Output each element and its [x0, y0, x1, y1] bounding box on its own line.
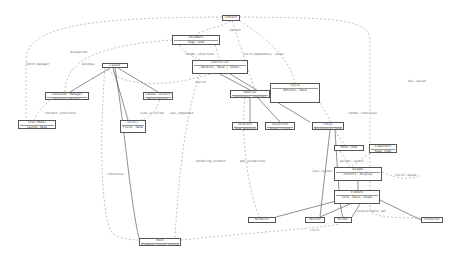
edge-label: pen_properties: [240, 159, 265, 163]
edge-label: child: [310, 228, 319, 232]
node-title: Context: [224, 16, 238, 20]
class-node: Container ManagerDisplay object: [45, 92, 89, 100]
node-members: Image layout: [267, 128, 293, 130]
edge-label: size_scrolled: [140, 111, 163, 115]
edge-label: last_layout: [312, 169, 332, 173]
class-node: FocusNavigation Item: [312, 122, 344, 130]
node-members: Core, Base, Shape: [336, 196, 378, 200]
edge-label: Windows: [82, 62, 95, 66]
node-title: Renderer: [250, 218, 274, 222]
class-node: Context: [222, 15, 240, 21]
class-node: ElementCore, Base, Shape: [334, 190, 380, 204]
node-title: Container: [423, 218, 441, 222]
node-members: Base item: [371, 150, 395, 153]
node-members: Page item: [174, 41, 218, 45]
edge-label: render_interface: [185, 52, 214, 56]
node-title: Painter: [307, 218, 323, 222]
edge-label: parent: [230, 28, 241, 32]
node-members: Display object: [47, 98, 87, 100]
edge-label: owner: [275, 52, 284, 56]
edge-label: reference: [107, 172, 123, 176]
edge-label: render_interface: [348, 111, 377, 115]
diagram-canvas: ContextDocumentPage itemControllerHandle…: [0, 0, 464, 256]
edge-label: child_dependency: [243, 52, 272, 56]
class-node: HandlerConnector, Options: [230, 90, 270, 98]
node-members: Control, Display: [336, 173, 380, 177]
class-node: Layout: [102, 63, 128, 68]
class-node: Border: [334, 217, 352, 223]
edge-label: has_layout: [408, 79, 426, 83]
class-node: View ModelLayout data: [18, 120, 56, 129]
class-node: ScrollField, Data: [120, 120, 146, 133]
node-members: Base object: [145, 98, 171, 100]
edge-label: rendering_context: [195, 159, 226, 163]
node-title: Menu Item: [336, 146, 362, 150]
node-title: Border: [336, 218, 350, 222]
edge-label: fetch_manager: [26, 62, 49, 66]
class-node: SelectionImage layout: [265, 122, 295, 130]
node-members: Navigation Item: [314, 128, 342, 130]
edge-label: child_layout: [395, 173, 417, 177]
class-node: StyleOptions, Base: [270, 83, 320, 103]
node-title: Layout: [104, 64, 126, 68]
node-members: Field, Data: [122, 126, 144, 130]
class-node: DocumentPage item: [172, 35, 220, 45]
class-node: Painter: [305, 217, 325, 223]
edge-label: context_interface: [45, 111, 76, 115]
edge-label: interactable_set: [357, 209, 386, 213]
class-node: WidgetControl, Display: [334, 167, 382, 181]
node-members: Options, Base: [272, 89, 318, 93]
node-members: Layout data: [20, 126, 54, 129]
node-members: Item Handler: [234, 128, 256, 130]
class-node: Menu Item: [334, 145, 364, 151]
node-members: Connector, Options: [232, 96, 268, 98]
node-members: Element Layout object: [141, 244, 179, 246]
edge-label: dispatcher: [70, 50, 88, 54]
class-node: RootElement Layout object: [139, 238, 181, 246]
class-node: Renderer: [248, 217, 276, 223]
class-node: Canvas ContextBase object: [143, 92, 173, 100]
edge-label: sub_component: [170, 111, 193, 115]
class-node: ComponentBase item: [369, 144, 397, 153]
node-members: Handler, Base | State: [194, 66, 246, 70]
edge-label: source: [195, 80, 206, 84]
class-node: SelectorItem Handler: [232, 122, 258, 130]
class-node: Container: [421, 217, 443, 223]
class-node: ControllerHandler, Base | State: [192, 60, 248, 74]
edge-label: parent_layout: [340, 159, 363, 163]
